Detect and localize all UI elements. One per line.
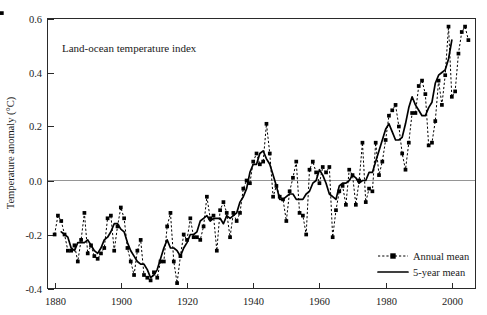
data-point bbox=[364, 200, 368, 204]
data-point bbox=[410, 111, 414, 115]
data-point bbox=[109, 214, 113, 218]
x-tick-label-1900: 1900 bbox=[111, 296, 132, 307]
data-point bbox=[430, 141, 434, 145]
x-tick-label-1880: 1880 bbox=[45, 296, 66, 307]
y-tick-label-0.2: 0.2 bbox=[29, 121, 42, 132]
data-point bbox=[427, 144, 431, 148]
legend-label-5-year-mean: 5-year mean bbox=[413, 267, 466, 278]
series-5-year-mean-line bbox=[61, 40, 452, 278]
data-point bbox=[390, 108, 394, 112]
data-point bbox=[420, 79, 424, 83]
data-point bbox=[261, 160, 265, 164]
data-point bbox=[407, 141, 411, 145]
legend-label-annual-mean: Annual mean bbox=[413, 251, 470, 262]
data-point bbox=[404, 168, 408, 172]
y-axis-title: Temperature anomaly (°C) bbox=[5, 96, 17, 209]
data-point bbox=[205, 195, 209, 199]
data-point bbox=[424, 92, 428, 96]
data-point bbox=[235, 219, 239, 223]
data-point bbox=[460, 30, 464, 34]
y-axis-tick-labels: -0.4-0.20.00.20.40.6 bbox=[25, 14, 42, 295]
data-point bbox=[212, 214, 216, 218]
data-point bbox=[149, 279, 153, 283]
data-point bbox=[384, 138, 388, 142]
data-point bbox=[268, 152, 272, 156]
data-point bbox=[76, 260, 80, 264]
data-point bbox=[215, 249, 219, 253]
data-point bbox=[79, 238, 83, 242]
data-point bbox=[198, 238, 202, 242]
data-point bbox=[86, 252, 90, 256]
data-point bbox=[169, 211, 173, 215]
legend-item-5-year-mean: 5-year mean bbox=[378, 267, 466, 278]
plot-annotation: Land-ocean temperature index bbox=[62, 42, 197, 54]
legend-marker-annual-mean bbox=[390, 253, 395, 258]
data-point bbox=[53, 233, 57, 237]
y-tick-label--0.4: -0.4 bbox=[25, 284, 42, 295]
data-point bbox=[99, 252, 103, 256]
data-point bbox=[361, 141, 365, 145]
data-point bbox=[188, 216, 192, 220]
data-point bbox=[453, 90, 457, 94]
data-point bbox=[56, 214, 60, 218]
data-point bbox=[354, 203, 358, 207]
data-point bbox=[328, 165, 332, 169]
data-point bbox=[222, 200, 226, 204]
x-tick-label-1960: 1960 bbox=[309, 296, 330, 307]
data-point bbox=[132, 273, 136, 277]
data-point bbox=[258, 162, 262, 166]
data-point bbox=[387, 114, 391, 118]
data-point bbox=[145, 276, 149, 280]
temperature-anomaly-figure: -0.4-0.20.00.20.40.6 1880190019201940196… bbox=[0, 0, 487, 315]
data-point bbox=[155, 276, 159, 280]
data-point bbox=[344, 203, 348, 207]
data-point bbox=[175, 281, 179, 285]
data-point bbox=[102, 246, 106, 250]
y-axis-ticks bbox=[48, 20, 54, 290]
data-point bbox=[165, 225, 169, 229]
data-point bbox=[294, 160, 298, 164]
data-point bbox=[112, 249, 116, 253]
data-point bbox=[265, 122, 269, 126]
data-point bbox=[129, 260, 133, 264]
data-point bbox=[136, 249, 140, 253]
data-point bbox=[394, 103, 398, 107]
data-point bbox=[400, 152, 404, 156]
data-point bbox=[371, 189, 375, 193]
data-point bbox=[255, 152, 259, 156]
data-point bbox=[450, 95, 454, 99]
y-tick-label-0.0: 0.0 bbox=[29, 176, 42, 187]
data-point bbox=[433, 119, 437, 123]
data-point bbox=[457, 52, 461, 56]
data-point bbox=[172, 260, 176, 264]
data-point bbox=[162, 260, 166, 264]
data-point bbox=[291, 176, 295, 180]
plot-frame bbox=[48, 19, 476, 289]
data-point bbox=[347, 168, 351, 172]
y-tick-label-0.6: 0.6 bbox=[29, 14, 42, 25]
data-point bbox=[321, 165, 325, 169]
data-point bbox=[377, 173, 381, 177]
data-point bbox=[225, 211, 229, 215]
data-point bbox=[417, 84, 421, 88]
data-point bbox=[195, 235, 199, 239]
data-point bbox=[284, 219, 288, 223]
data-point bbox=[374, 141, 378, 145]
x-axis-ticks bbox=[56, 283, 453, 289]
data-point bbox=[66, 249, 70, 253]
data-point bbox=[182, 233, 186, 237]
data-point bbox=[288, 189, 292, 193]
x-tick-label-1920: 1920 bbox=[177, 296, 198, 307]
x-tick-label-1980: 1980 bbox=[376, 296, 397, 307]
chart-canvas: -0.4-0.20.00.20.40.6 1880190019201940196… bbox=[0, 0, 487, 315]
data-point bbox=[139, 238, 143, 242]
data-point bbox=[96, 257, 100, 261]
data-point bbox=[83, 211, 87, 215]
data-point bbox=[218, 208, 222, 212]
data-point bbox=[308, 168, 312, 172]
data-point bbox=[463, 25, 467, 29]
data-point bbox=[380, 160, 384, 164]
data-point bbox=[443, 73, 447, 77]
data-point bbox=[301, 214, 305, 218]
data-point bbox=[92, 254, 96, 258]
